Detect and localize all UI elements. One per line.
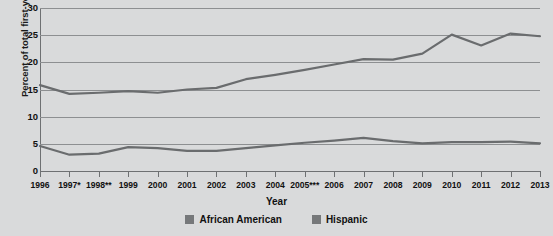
- x-axis-tick: [305, 171, 306, 177]
- legend-label: Hispanic: [326, 214, 368, 225]
- x-axis-tick: [216, 171, 217, 177]
- x-axis-tick: [511, 171, 512, 177]
- x-axis-tick: [364, 171, 365, 177]
- y-axis-tick-label: 25: [16, 30, 38, 40]
- y-axis-tick-label: 5: [16, 139, 38, 149]
- x-axis-tick: [187, 171, 188, 177]
- x-axis-tick-label: 2013: [530, 180, 549, 191]
- x-axis-tick-label: 1997*: [58, 180, 80, 191]
- series-line: [40, 138, 540, 155]
- x-axis-tick-label: 2003: [236, 180, 255, 191]
- legend-swatch-icon: [312, 215, 321, 224]
- plot-area: [40, 8, 540, 171]
- x-axis-tick-label: 1998**: [86, 180, 112, 191]
- x-axis-tick-label: 2001: [177, 180, 196, 191]
- x-axis-title: Year: [0, 196, 553, 207]
- x-axis-tick-label: 2008: [383, 180, 402, 191]
- x-axis-tick: [128, 171, 129, 177]
- x-axis-tick-labels: 19961997*1998**1999200020012002200320042…: [0, 180, 553, 194]
- series-lines: [40, 8, 540, 171]
- series-line: [40, 34, 540, 94]
- x-axis-tick: [540, 171, 541, 177]
- x-axis-tick: [69, 171, 70, 177]
- x-axis-tick-label: 2011: [472, 180, 491, 191]
- x-axis-tick: [99, 171, 100, 177]
- x-axis-tick: [158, 171, 159, 177]
- x-axis-tick: [481, 171, 482, 177]
- x-axis-tick-label: 2007: [354, 180, 373, 191]
- line-chart: Percent of total first-year enrollment 0…: [0, 0, 553, 236]
- x-axis-tick-label: 2010: [442, 180, 461, 191]
- x-axis-line: [40, 171, 541, 172]
- x-axis-tick-label: 2004: [266, 180, 285, 191]
- y-axis-tick-label: 30: [16, 3, 38, 13]
- x-axis-tick: [246, 171, 247, 177]
- x-axis-tick-label: 2005***: [290, 180, 319, 191]
- legend-item[interactable]: African American: [185, 214, 281, 225]
- x-axis-tick-label: 2006: [325, 180, 344, 191]
- y-axis-tick-label: 20: [16, 57, 38, 67]
- legend-label: African American: [199, 214, 281, 225]
- x-axis-tick-label: 1999: [119, 180, 138, 191]
- x-axis-tick-label: 2009: [413, 180, 432, 191]
- x-axis-tick-label: 2000: [148, 180, 167, 191]
- x-axis-tick: [40, 171, 41, 177]
- x-axis-tick: [334, 171, 335, 177]
- x-axis-tick-label: 1996: [30, 180, 49, 191]
- x-axis-tick: [452, 171, 453, 177]
- x-axis-tick-label: 2002: [207, 180, 226, 191]
- chart-legend: African AmericanHispanic: [0, 214, 553, 225]
- x-axis-tick: [422, 171, 423, 177]
- x-axis-tick-label: 2012: [501, 180, 520, 191]
- x-axis-tick: [275, 171, 276, 177]
- y-axis-tick-label: 15: [16, 85, 38, 95]
- y-axis-tick-label: 10: [16, 112, 38, 122]
- legend-swatch-icon: [185, 215, 194, 224]
- x-axis-tick: [393, 171, 394, 177]
- legend-item[interactable]: Hispanic: [312, 214, 368, 225]
- y-axis-tick-label: 0: [16, 166, 38, 176]
